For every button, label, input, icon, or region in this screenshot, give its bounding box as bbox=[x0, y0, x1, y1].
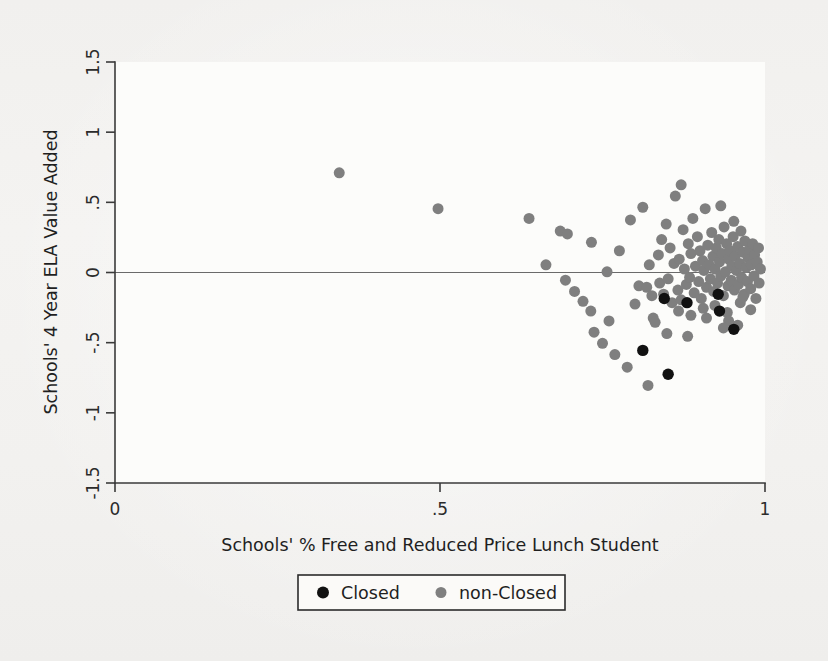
data-point-non-closed bbox=[718, 322, 729, 333]
data-point-non-closed bbox=[334, 167, 345, 178]
data-point-closed bbox=[713, 289, 724, 300]
y-tick-label: -1.5 bbox=[83, 466, 103, 499]
data-point-non-closed bbox=[569, 286, 580, 297]
data-point-non-closed bbox=[653, 249, 664, 260]
data-point-non-closed bbox=[665, 242, 676, 253]
data-point-non-closed bbox=[673, 306, 684, 317]
data-point-non-closed bbox=[682, 331, 693, 342]
legend-label-non-closed: non-Closed bbox=[459, 583, 557, 603]
data-point-non-closed bbox=[578, 296, 589, 307]
data-point-non-closed bbox=[753, 242, 764, 253]
data-point-non-closed bbox=[609, 349, 620, 360]
legend-label-closed: Closed bbox=[341, 583, 400, 603]
data-point-non-closed bbox=[755, 263, 766, 274]
x-tick-label: 1 bbox=[760, 499, 771, 519]
data-point-non-closed bbox=[685, 310, 696, 321]
data-point-closed bbox=[714, 305, 725, 316]
scatter-plot: 1.51.50-.5-1-1.5 0.51 Schools' 4 Year EL… bbox=[0, 0, 828, 661]
data-point-non-closed bbox=[676, 179, 687, 190]
x-axis-title: Schools' % Free and Reduced Price Lunch … bbox=[221, 535, 659, 555]
data-point-non-closed bbox=[692, 231, 703, 242]
data-point-non-closed bbox=[589, 327, 600, 338]
x-tick-label: 0 bbox=[110, 499, 121, 519]
data-point-non-closed bbox=[622, 362, 633, 373]
y-tick-label: -1 bbox=[83, 404, 103, 421]
data-point-non-closed bbox=[661, 219, 672, 230]
data-point-non-closed bbox=[614, 245, 625, 256]
y-tick-label: .5 bbox=[83, 194, 103, 210]
figure-container: 1.51.50-.5-1-1.5 0.51 Schools' 4 Year EL… bbox=[0, 0, 828, 661]
legend-marker-closed bbox=[317, 587, 329, 599]
data-point-non-closed bbox=[585, 306, 596, 317]
data-point-closed bbox=[662, 369, 673, 380]
data-point-non-closed bbox=[524, 213, 535, 224]
data-point-closed bbox=[637, 345, 648, 356]
data-point-non-closed bbox=[683, 238, 694, 249]
data-point-non-closed bbox=[674, 254, 685, 265]
data-point-non-closed bbox=[604, 315, 615, 326]
legend: Closed non-Closed bbox=[298, 575, 565, 610]
data-point-non-closed bbox=[630, 299, 641, 310]
y-tick-label: 1 bbox=[83, 127, 103, 138]
y-tick-label: 1.5 bbox=[83, 48, 103, 75]
data-point-non-closed bbox=[650, 317, 661, 328]
data-point-non-closed bbox=[700, 203, 711, 214]
data-point-non-closed bbox=[602, 266, 613, 277]
data-point-non-closed bbox=[656, 234, 667, 245]
data-point-non-closed bbox=[646, 290, 657, 301]
data-point-non-closed bbox=[597, 338, 608, 349]
data-point-non-closed bbox=[715, 200, 726, 211]
y-tick-label: -.5 bbox=[83, 331, 103, 353]
data-point-non-closed bbox=[637, 202, 648, 213]
data-point-non-closed bbox=[696, 293, 707, 304]
data-point-non-closed bbox=[586, 237, 597, 248]
data-point-non-closed bbox=[663, 273, 674, 284]
data-point-non-closed bbox=[540, 259, 551, 270]
legend-marker-non-closed bbox=[436, 587, 447, 598]
data-point-non-closed bbox=[750, 293, 761, 304]
data-point-non-closed bbox=[560, 275, 571, 286]
data-point-non-closed bbox=[719, 221, 730, 232]
x-tick-label: .5 bbox=[432, 499, 448, 519]
data-point-non-closed bbox=[687, 213, 698, 224]
data-point-non-closed bbox=[670, 191, 681, 202]
data-point-non-closed bbox=[643, 380, 654, 391]
data-point-non-closed bbox=[737, 292, 748, 303]
y-axis-ticks: 1.51.50-.5-1-1.5 bbox=[83, 48, 115, 499]
data-point-non-closed bbox=[433, 203, 444, 214]
data-point-non-closed bbox=[698, 303, 709, 314]
data-point-non-closed bbox=[728, 216, 739, 227]
x-axis-ticks: 0.51 bbox=[110, 483, 771, 519]
data-point-non-closed bbox=[701, 313, 712, 324]
data-point-non-closed bbox=[625, 214, 636, 225]
data-point-closed bbox=[728, 324, 739, 335]
data-point-non-closed bbox=[661, 328, 672, 339]
data-point-non-closed bbox=[644, 259, 655, 270]
data-point-non-closed bbox=[754, 278, 765, 289]
data-point-closed bbox=[659, 293, 670, 304]
y-tick-label: 0 bbox=[83, 267, 103, 278]
data-point-closed bbox=[681, 297, 692, 308]
data-point-non-closed bbox=[678, 224, 689, 235]
data-point-non-closed bbox=[745, 304, 756, 315]
data-point-non-closed bbox=[735, 226, 746, 237]
data-point-non-closed bbox=[562, 228, 573, 239]
y-axis-title: Schools' 4 Year ELA Value Added bbox=[41, 129, 61, 414]
